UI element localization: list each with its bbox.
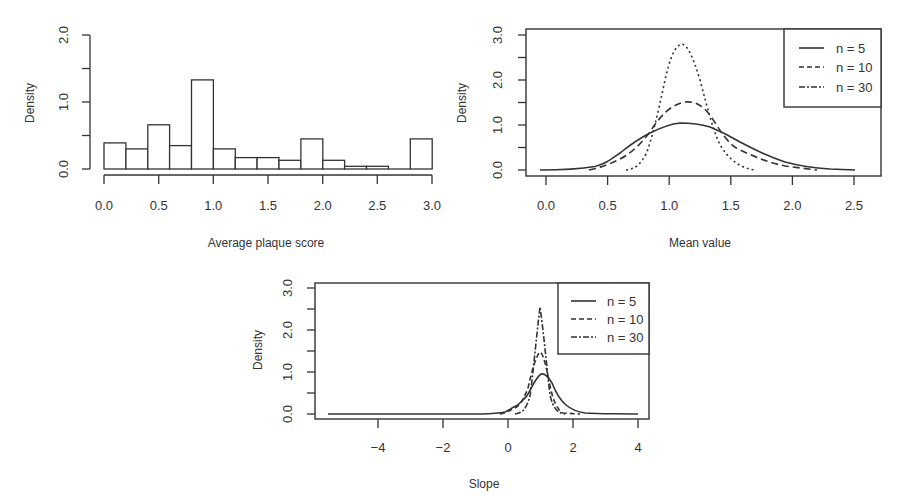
slope-y-axis — [307, 288, 315, 414]
hist-bar — [126, 149, 148, 169]
slope-ytick-1: 1.0 — [280, 363, 295, 381]
slope-y-label: Density — [251, 330, 265, 370]
hist-x-axis — [104, 175, 432, 184]
mean-x-tick-labels: 0.0 0.5 1.0 1.5 2.0 2.5 — [537, 198, 863, 213]
slope-ytick-2: 2.0 — [280, 321, 295, 339]
mean-xtick-3: 1.5 — [722, 198, 740, 213]
hist-bar — [192, 80, 214, 169]
mean-density-plot: 0.0 1.0 2.0 3.0 Density 0.0 0.5 1.0 1.5 … — [455, 26, 881, 250]
mean-y-tick-labels: 0.0 1.0 2.0 3.0 — [490, 26, 505, 179]
hist-xtick-3: 1.5 — [259, 198, 277, 213]
slope-legend: n = 5 n = 10 n = 30 — [558, 283, 649, 354]
slope-curve-n10 — [500, 352, 580, 414]
slope-density-plot: 0.0 1.0 2.0 3.0 Density −4 −2 0 2 4 Slop… — [251, 279, 649, 491]
mean-curve-n30 — [626, 44, 755, 170]
slope-x-tick-labels: −4 −2 0 2 4 — [371, 440, 642, 455]
figure-canvas: 0.0 1.0 2.0 Density — [0, 0, 897, 502]
slope-xtick-3: 2 — [569, 440, 576, 455]
slope-xtick-4: 4 — [634, 440, 641, 455]
slope-xtick-0: −4 — [371, 440, 386, 455]
hist-y-label: Density — [23, 83, 37, 123]
mean-y-label: Density — [455, 83, 469, 123]
hist-y-axis — [82, 35, 90, 169]
mean-legend-n5: n = 5 — [836, 41, 865, 56]
mean-legend-n10: n = 10 — [836, 60, 873, 75]
slope-ytick-0: 0.0 — [280, 405, 295, 423]
hist-bar — [148, 125, 170, 169]
hist-xtick-5: 2.5 — [368, 198, 386, 213]
mean-curve-n10 — [589, 102, 817, 170]
slope-ytick-3: 3.0 — [280, 279, 295, 297]
hist-bar — [235, 158, 257, 169]
slope-x-axis — [378, 419, 638, 428]
mean-x-label: Mean value — [669, 236, 731, 250]
hist-bar — [257, 158, 279, 169]
hist-bars — [104, 80, 432, 169]
mean-legend: n = 5 n = 10 n = 30 — [784, 29, 881, 107]
hist-bar — [367, 166, 389, 169]
hist-ytick-0: 0.0 — [56, 160, 71, 178]
slope-curve-n5 — [328, 374, 638, 414]
hist-xtick-4: 2.0 — [314, 198, 332, 213]
hist-xtick-0: 0.0 — [95, 198, 113, 213]
hist-bar — [213, 149, 235, 169]
mean-ytick-2: 2.0 — [490, 71, 505, 89]
hist-bar — [410, 139, 432, 169]
mean-ytick-0: 0.0 — [490, 161, 505, 179]
slope-legend-n5: n = 5 — [607, 294, 636, 309]
mean-legend-n30: n = 30 — [836, 80, 873, 95]
hist-bar — [170, 146, 192, 169]
mean-xtick-0: 0.0 — [537, 198, 555, 213]
mean-y-axis — [518, 35, 526, 170]
mean-xtick-2: 1.0 — [660, 198, 678, 213]
hist-ytick-2: 2.0 — [56, 26, 71, 44]
hist-bar — [345, 166, 367, 169]
hist-xtick-2: 1.0 — [204, 198, 222, 213]
mean-x-axis — [546, 176, 854, 185]
slope-legend-n10: n = 10 — [607, 312, 644, 327]
slope-xtick-1: −2 — [436, 440, 451, 455]
mean-curve-n5 — [540, 123, 855, 170]
hist-xtick-1: 0.5 — [150, 198, 168, 213]
slope-y-tick-labels: 0.0 1.0 2.0 3.0 — [280, 279, 295, 423]
hist-x-tick-labels: 0.0 0.5 1.0 1.5 2.0 2.5 3.0 — [95, 198, 441, 213]
hist-bar — [301, 139, 323, 169]
slope-x-label: Slope — [469, 477, 500, 491]
slope-xtick-2: 0 — [504, 440, 511, 455]
hist-bar — [279, 160, 301, 169]
hist-y-tick-labels: 0.0 1.0 2.0 — [56, 26, 71, 178]
hist-bar — [104, 143, 126, 169]
hist-bar — [323, 160, 345, 169]
histogram-plot: 0.0 1.0 2.0 Density — [23, 26, 441, 250]
mean-ytick-3: 3.0 — [490, 26, 505, 44]
mean-xtick-4: 2.0 — [783, 198, 801, 213]
hist-xtick-6: 3.0 — [423, 198, 441, 213]
mean-xtick-1: 0.5 — [599, 198, 617, 213]
slope-legend-n30: n = 30 — [607, 330, 644, 345]
mean-xtick-5: 2.5 — [845, 198, 863, 213]
hist-ytick-1: 1.0 — [56, 93, 71, 111]
mean-ytick-1: 1.0 — [490, 116, 505, 134]
hist-x-label: Average plaque score — [208, 236, 325, 250]
